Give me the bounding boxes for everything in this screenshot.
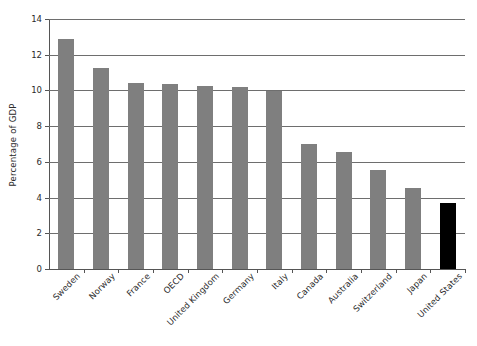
y-tick-label: 14 — [31, 14, 42, 24]
x-axis-label: Canada — [295, 271, 325, 301]
bar[interactable] — [405, 188, 421, 269]
x-axis-label: Japan — [405, 271, 429, 295]
bar[interactable] — [197, 86, 213, 269]
plot-area: 02468101214 — [49, 19, 465, 269]
bar[interactable] — [128, 83, 144, 269]
x-axis-labels: SwedenNorwayFranceOECDUnited KingdomGerm… — [49, 271, 465, 346]
bar[interactable] — [266, 91, 282, 269]
y-axis-title: Percentage of GDP — [8, 65, 18, 225]
bar-chart: Percentage of GDP 02468101214 SwedenNorw… — [0, 0, 477, 346]
y-tick-label: 0 — [37, 264, 42, 274]
x-axis-label: Italy — [270, 271, 290, 291]
bar[interactable] — [440, 203, 456, 269]
y-tick-label: 6 — [37, 157, 42, 167]
bars — [49, 19, 465, 269]
x-axis-label: Germany — [221, 271, 256, 306]
x-axis-label: Norway — [87, 271, 117, 301]
bar[interactable] — [232, 87, 248, 269]
y-tick-mark — [45, 269, 49, 270]
bar[interactable] — [301, 144, 317, 269]
y-tick-label: 8 — [37, 121, 42, 131]
bar[interactable] — [370, 170, 386, 269]
x-axis-label: France — [124, 271, 151, 298]
y-tick-label: 12 — [31, 50, 42, 60]
bar[interactable] — [162, 84, 178, 269]
x-tick-mark — [465, 269, 466, 273]
y-tick-label: 2 — [37, 228, 42, 238]
y-tick-label: 4 — [37, 193, 42, 203]
x-axis-label: Australia — [325, 271, 359, 305]
bar[interactable] — [58, 39, 74, 269]
bar[interactable] — [93, 68, 109, 269]
y-tick-label: 10 — [31, 85, 42, 95]
x-axis-label: Sweden — [51, 271, 82, 302]
bar[interactable] — [336, 152, 352, 269]
x-axis-label: OECD — [162, 271, 187, 296]
